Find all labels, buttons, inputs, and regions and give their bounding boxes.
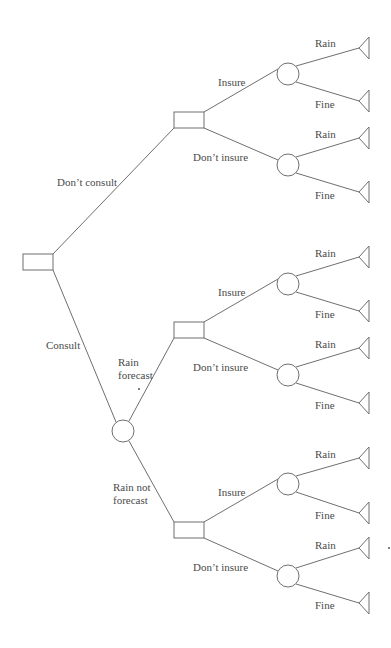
label-consult: Consult <box>46 339 80 351</box>
label-rain-not-forecast-line1: Rain not <box>113 481 151 493</box>
terminal-node-triangle <box>359 37 369 59</box>
terminal-node-triangle <box>359 337 369 359</box>
label-dont-insure-3: Don’t insure <box>193 561 248 573</box>
terminal-node-triangle <box>359 246 369 268</box>
terminal-node-triangle <box>359 181 369 203</box>
label-outcome-rain: Rain <box>315 338 336 350</box>
tree-edges <box>53 48 359 603</box>
label-outcome-rain: Rain <box>315 539 336 551</box>
label-outcome-fine: Fine <box>315 509 335 521</box>
label-outcome-rain: Rain <box>315 448 336 460</box>
label-rain-forecast-line2: forecast <box>118 369 153 381</box>
branch-line <box>296 138 359 157</box>
decision-tree-diagram: Don’t consult Consult Rain forecast Rain… <box>0 0 391 648</box>
decision-node-square <box>174 112 204 128</box>
speck-mark <box>388 547 390 549</box>
label-outcome-rain: Rain <box>315 37 336 49</box>
label-outcome-fine: Fine <box>315 308 335 320</box>
terminal-node-triangle <box>359 300 369 322</box>
branch-line <box>296 48 359 66</box>
branch-line <box>296 348 359 367</box>
branch-line <box>53 128 174 254</box>
label-rain-not-forecast-line2: forecast <box>113 494 148 506</box>
chance-node-circle <box>112 420 134 442</box>
chance-nodes <box>112 63 299 587</box>
chance-node-circle <box>277 63 299 85</box>
label-outcome-rain: Rain <box>315 128 336 140</box>
chance-node-circle <box>277 154 299 176</box>
branch-line <box>296 257 359 276</box>
chance-node-circle <box>277 565 299 587</box>
label-insure-2: Insure <box>218 286 246 298</box>
speck-mark <box>138 388 140 390</box>
label-dont-consult: Don’t consult <box>57 176 117 188</box>
decision-node-square <box>174 522 204 538</box>
label-dont-insure-1: Don’t insure <box>193 151 248 163</box>
branch-line <box>296 548 359 568</box>
terminal-node-triangle <box>359 392 369 414</box>
label-outcome-fine: Fine <box>315 599 335 611</box>
label-rain-forecast-line1: Rain <box>118 356 139 368</box>
label-dont-insure-2: Don’t insure <box>193 361 248 373</box>
terminal-node-triangle <box>359 127 369 149</box>
terminal-node-triangle <box>359 592 369 614</box>
decision-node-square <box>174 322 204 338</box>
label-insure-1: Insure <box>218 76 246 88</box>
chance-node-circle <box>277 473 299 495</box>
terminal-node-triangle <box>359 537 369 559</box>
branch-line <box>296 458 359 476</box>
terminal-node-triangle <box>359 447 369 469</box>
decision-node-square <box>23 254 53 270</box>
label-outcome-fine: Fine <box>315 189 335 201</box>
label-insure-3: Insure <box>218 486 246 498</box>
label-outcome-rain: Rain <box>315 247 336 259</box>
terminal-node-triangle <box>359 90 369 112</box>
terminal-nodes <box>359 37 369 614</box>
terminal-node-triangle <box>359 502 369 524</box>
chance-node-circle <box>277 273 299 295</box>
label-outcome-fine: Fine <box>315 98 335 110</box>
chance-node-circle <box>277 364 299 386</box>
label-outcome-fine: Fine <box>315 399 335 411</box>
